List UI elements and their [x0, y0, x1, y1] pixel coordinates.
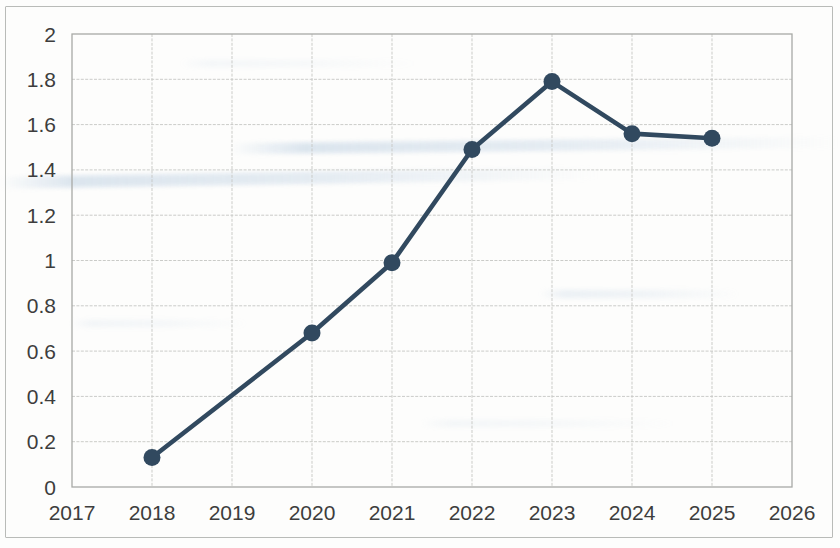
chart-canvas: 00.20.40.60.811.21.41.61.82 201720182019…: [0, 0, 840, 548]
x-tick-label: 2024: [609, 501, 656, 524]
data-point-marker: 2022: 1.49: [464, 141, 481, 158]
x-tick-label: 2018: [129, 501, 176, 524]
data-point-marker: 2021: 0.99: [384, 254, 401, 271]
y-tick-label: 0.6: [27, 340, 56, 363]
data-point-marker: 2024: 1.56: [624, 125, 641, 142]
y-tick-label: 0.8: [27, 294, 56, 317]
x-tick-label: 2020: [289, 501, 336, 524]
y-tick-label: 2: [44, 23, 56, 46]
y-tick-label: 0.4: [27, 385, 57, 408]
x-axis-tick-labels: 2017201820192020202120222023202420252026: [49, 501, 816, 524]
x-tick-label: 2019: [209, 501, 256, 524]
y-tick-label: 0.2: [27, 430, 56, 453]
y-tick-label: 0: [44, 476, 56, 499]
y-tick-label: 1: [44, 249, 56, 272]
x-tick-label: 2023: [529, 501, 576, 524]
line-chart-figure: 00.20.40.60.811.21.41.61.82 201720182019…: [0, 0, 840, 548]
x-tick-label: 2022: [449, 501, 496, 524]
x-tick-label: 2026: [769, 501, 816, 524]
data-point-marker: 2018: 0.13: [144, 449, 161, 466]
data-point-marker: 2020: 0.68: [304, 324, 321, 341]
y-tick-label: 1.2: [27, 204, 56, 227]
y-gridlines: [72, 79, 792, 441]
x-tick-label: 2025: [689, 501, 736, 524]
data-point-markers: 2018: 0.132020: 0.682021: 0.992022: 1.49…: [144, 73, 721, 466]
y-tick-label: 1.4: [27, 158, 57, 181]
y-tick-label: 1.8: [27, 68, 56, 91]
x-tick-label: 2021: [369, 501, 416, 524]
y-tick-label: 1.6: [27, 113, 56, 136]
y-axis-tick-labels: 00.20.40.60.811.21.41.61.82: [27, 23, 57, 499]
data-point-marker: 2025: 1.54: [704, 130, 721, 147]
x-tick-label: 2017: [49, 501, 96, 524]
data-point-marker: 2023: 1.79: [544, 73, 561, 90]
